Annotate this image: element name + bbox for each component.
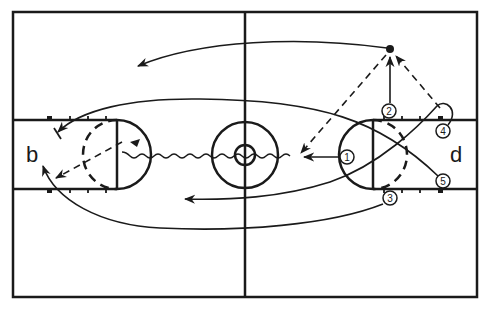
player-2: 2: [382, 104, 396, 118]
left-basket-label: b: [26, 142, 38, 167]
dribble-line: [122, 152, 290, 158]
pass-player4-to-ball: [396, 56, 440, 108]
basketball-court-diagram: b d 1: [0, 0, 489, 313]
cut-ball-to-upper-left: [138, 42, 387, 66]
svg-text:4: 4: [440, 126, 446, 137]
player-3: 3: [383, 191, 397, 205]
right-basket-label: d: [450, 142, 462, 167]
svg-text:2: 2: [386, 106, 392, 117]
player-5: 5: [436, 174, 450, 188]
dribble-arrowhead: [130, 139, 140, 147]
svg-text:5: 5: [440, 176, 446, 187]
svg-text:1: 1: [344, 152, 350, 163]
player-4: 4: [436, 124, 450, 138]
cut-player3-to-left: [43, 166, 383, 229]
cut-player4-loop: [185, 103, 452, 199]
svg-text:3: 3: [387, 193, 393, 204]
pass-left-key: [56, 142, 122, 178]
ball-icon: [386, 45, 394, 53]
player-1: 1: [340, 150, 354, 164]
